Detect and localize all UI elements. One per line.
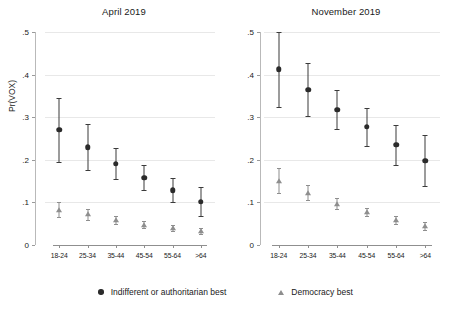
filled-triangle-icon (278, 290, 284, 295)
confidence-interval-cap (171, 231, 175, 232)
gridline (45, 117, 215, 118)
y-axis-tick-mark (257, 245, 260, 246)
x-axis-tick-label: 18-24 (51, 252, 68, 259)
y-axis-tick-label: .1 (22, 198, 29, 207)
confidence-interval-cap (306, 63, 311, 64)
x-axis-tick-label: >64 (195, 252, 206, 259)
gridline (264, 75, 440, 76)
y-axis-tick-label: .5 (247, 28, 254, 37)
confidence-interval-cap (365, 216, 369, 217)
x-axis-tick-mark (425, 245, 426, 248)
y-axis-tick-mark (257, 75, 260, 76)
y-axis-line (35, 32, 36, 245)
filled-circle-icon (98, 289, 104, 295)
data-point-circle (276, 67, 282, 73)
data-point-triangle (56, 207, 62, 212)
data-point-circle (198, 199, 204, 205)
confidence-interval-cap (394, 165, 399, 166)
confidence-interval-cap (113, 148, 118, 149)
panel-title: April 2019 (0, 6, 226, 17)
y-axis-tick-mark (32, 202, 35, 203)
y-axis-label: Pr(VOX) (7, 80, 17, 112)
legend-item-democracy: Democracy best (278, 287, 352, 297)
confidence-interval-cap (335, 129, 340, 130)
gridline (264, 160, 440, 161)
y-axis-tick-mark (32, 245, 35, 246)
y-axis-tick-label: .5 (22, 28, 29, 37)
y-axis-tick-label: .4 (22, 70, 29, 79)
x-axis-tick-label: 55-64 (164, 252, 181, 259)
x-axis-tick-mark (201, 245, 202, 248)
confidence-interval-cap (198, 187, 203, 188)
y-axis-tick-label: 0 (25, 241, 29, 250)
x-axis-line (53, 245, 207, 246)
y-axis-tick-label: .1 (247, 198, 254, 207)
x-axis-tick-label: 35-44 (329, 252, 346, 259)
y-axis-tick-mark (257, 117, 260, 118)
data-point-circle (141, 175, 147, 181)
confidence-interval-cap (57, 162, 62, 163)
y-axis-tick-mark (32, 32, 35, 33)
confidence-interval-cap (276, 107, 281, 108)
confidence-interval-cap (277, 193, 281, 194)
gridline (264, 32, 440, 33)
gridline (264, 117, 440, 118)
confidence-interval-cap (57, 202, 61, 203)
x-axis-tick-mark (337, 245, 338, 248)
x-axis-tick-label: 25-34 (79, 252, 96, 259)
confidence-interval-cap (85, 124, 90, 125)
confidence-interval-cap (335, 209, 339, 210)
x-axis-tick-mark (396, 245, 397, 248)
x-axis-tick-mark (308, 245, 309, 248)
panel-april-2019: April 2019 Pr(VOX) 0.1.2.3.4.518-2425-34… (0, 0, 226, 272)
x-axis-tick-label: 25-34 (300, 252, 317, 259)
x-axis-line (272, 245, 432, 246)
data-point-triangle (141, 222, 147, 227)
confidence-interval-cap (335, 90, 340, 91)
plot-area: 0.1.2.3.4.518-2425-3435-4445-5455-64>64 (45, 32, 215, 245)
gridline (45, 32, 215, 33)
confidence-interval-cap (306, 185, 310, 186)
confidence-interval-cap (86, 209, 90, 210)
data-point-triangle (198, 229, 204, 234)
confidence-interval-cap (142, 190, 147, 191)
data-point-triangle (334, 201, 340, 206)
panel-title: November 2019 (225, 6, 451, 17)
confidence-interval-cap (364, 146, 369, 147)
gridline (264, 202, 440, 203)
confidence-interval-cap (277, 168, 281, 169)
data-point-circle (56, 127, 62, 133)
y-axis-tick-mark (32, 160, 35, 161)
confidence-interval-cap (170, 178, 175, 179)
x-axis-tick-mark (116, 245, 117, 248)
confidence-interval-cap (199, 234, 203, 235)
y-axis-tick-mark (257, 202, 260, 203)
data-point-triangle (113, 218, 119, 223)
legend-label: Indifferent or authoritarian best (111, 287, 227, 297)
y-axis-tick-label: .4 (247, 70, 254, 79)
confidence-interval-cap (423, 186, 428, 187)
data-point-triangle (305, 190, 311, 195)
data-point-circle (113, 161, 119, 167)
data-point-triangle (85, 212, 91, 217)
confidence-interval-cap (86, 220, 90, 221)
x-axis-tick-mark (144, 245, 145, 248)
x-axis-tick-mark (59, 245, 60, 248)
data-point-circle (305, 87, 311, 93)
y-axis-tick-mark (32, 117, 35, 118)
legend: Indifferent or authoritarian best Democr… (0, 282, 451, 302)
data-point-circle (170, 188, 176, 194)
confidence-interval-cap (335, 198, 339, 199)
confidence-interval-cap (423, 230, 427, 231)
x-axis-tick-mark (88, 245, 89, 248)
y-axis-tick-label: 0 (250, 241, 254, 250)
confidence-interval-cap (394, 125, 399, 126)
y-axis-line (260, 32, 261, 245)
confidence-interval-cap (142, 228, 146, 229)
confidence-interval-cap (423, 135, 428, 136)
gridline (45, 202, 215, 203)
y-axis-tick-label: .2 (22, 155, 29, 164)
x-axis-tick-label: >64 (420, 252, 431, 259)
confidence-interval-cap (113, 179, 118, 180)
data-point-circle (85, 144, 91, 150)
